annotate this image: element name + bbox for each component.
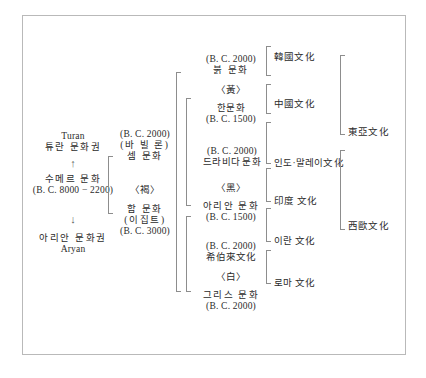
bracket-to-roma <box>266 250 271 284</box>
node-aryan-branch: 아리안 문화 (B. C. 1500) <box>192 201 270 223</box>
node-sem: (B. C. 2000) (바 빌 론) 셈 문화 <box>108 129 182 163</box>
node-india: 印度 文化 <box>274 196 358 207</box>
node-china: 中國文化 <box>274 99 358 110</box>
bracket-to-india <box>266 168 271 202</box>
node-white-label: 〈白〉 <box>192 272 270 283</box>
node-bulk-line-0: (B. C. 2000) <box>192 54 270 65</box>
bracket-to-korea <box>266 46 271 76</box>
node-ham: 함 문화 (이집트) (B. C. 3000) <box>108 204 182 238</box>
node-iran: 이란 文化 <box>274 236 358 247</box>
node-dravida-line-0: (B. C. 2000) <box>186 146 278 157</box>
node-greece: 그리스 문화 (B. C. 2000) <box>192 290 270 312</box>
node-sumer-line-0: 수메르 문화 <box>10 174 136 185</box>
bracket-to-iran <box>266 208 271 242</box>
node-ham-line-2: (B. C. 3000) <box>108 226 182 237</box>
bracket-to-indomalay <box>266 122 271 164</box>
node-greece-line-1: (B. C. 2000) <box>192 301 270 312</box>
node-dravida-line-1: 드라비다 문화 <box>186 157 278 168</box>
node-sem-line-0: (B. C. 2000) <box>108 129 182 140</box>
node-hebrew-line-0: (B. C. 2000) <box>192 241 270 252</box>
node-han-line-0: 한문화 <box>192 103 270 114</box>
node-dravida: (B. C. 2000) 드라비다 문화 <box>186 146 278 168</box>
node-indomalay: 인도·말레이文化 <box>274 158 374 169</box>
node-hebrew-line-1: 希伯來文化 <box>192 252 270 263</box>
node-hebrew: (B. C. 2000) 希伯來文化 <box>192 241 270 263</box>
node-ham-line-1: (이집트) <box>108 215 182 226</box>
node-yellow-label: 〈黃〉 <box>192 85 270 96</box>
diagram-canvas: Turan 튜란 문화권 ↑ 수메르 문화 (B. C. 8000 − 2200… <box>0 0 426 378</box>
node-brown-label: 〈褐〉 <box>108 185 182 196</box>
node-sem-line-2: 셈 문화 <box>108 151 182 162</box>
node-aryan-origin-line-1: Aryan <box>18 244 128 255</box>
node-han-line-1: (B. C. 1500) <box>192 114 270 125</box>
bracket-to-china <box>266 84 271 114</box>
node-east-asia: 東亞文化 <box>348 127 408 138</box>
node-bulk-line-1: 붉 문화 <box>192 65 270 76</box>
node-roma: 로마 文化 <box>274 278 358 289</box>
node-ham-line-0: 함 문화 <box>108 204 182 215</box>
node-aryan-branch-line-1: (B. C. 1500) <box>192 212 270 223</box>
bracket-branch-group-lower <box>186 216 191 292</box>
node-aryan-branch-line-0: 아리안 문화 <box>192 201 270 212</box>
bracket-to-east-asia <box>340 55 345 135</box>
bracket-semitic-to-branches <box>176 72 181 292</box>
node-korea: 韓國文化 <box>274 52 358 63</box>
node-west-europe: 西歐文化 <box>348 221 408 232</box>
node-bulk: (B. C. 2000) 붉 문화 <box>192 54 270 76</box>
node-greece-line-0: 그리스 문화 <box>192 290 270 301</box>
bracket-to-west-europe <box>340 150 345 230</box>
node-han: 한문화 (B. C. 1500) <box>192 103 270 125</box>
node-sem-line-1: (바 빌 론) <box>108 140 182 151</box>
node-black-label: 〈黑〉 <box>192 183 270 194</box>
